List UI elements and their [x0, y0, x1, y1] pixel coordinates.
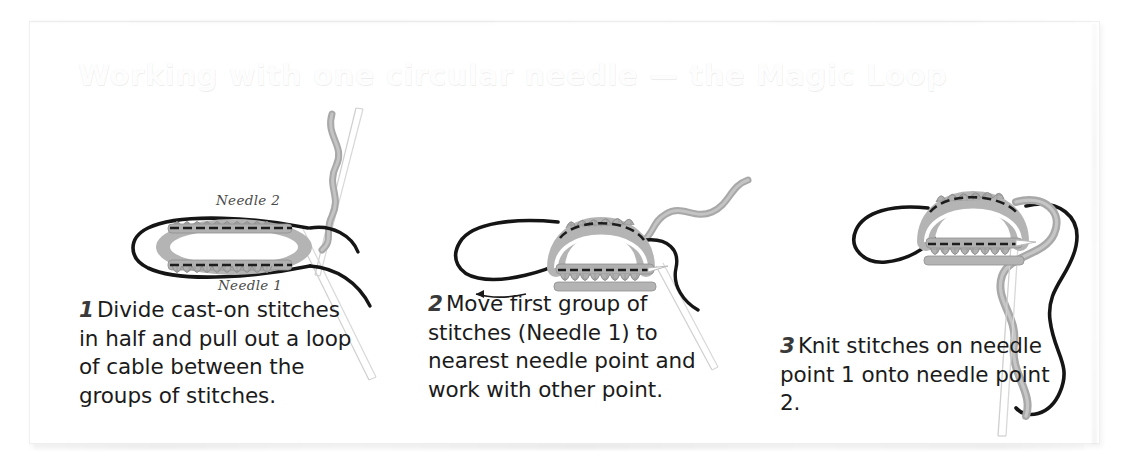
step-2: 2Move first group of stitches (Needle 1)…	[428, 290, 728, 404]
step-3-number: 3	[780, 333, 798, 358]
needle-1-stitch-bar	[924, 238, 1036, 265]
step-3-caption: 3Knit stitches on needle point 1 onto ne…	[780, 332, 1070, 418]
label-needle-1: Needle 1	[217, 277, 282, 293]
step-2-caption-text: Move first group of stitches (Needle 1) …	[428, 291, 696, 402]
magic-loop-step-3-illustration	[820, 168, 1120, 468]
step-3: 3Knit stitches on needle point 1 onto ne…	[780, 332, 1070, 418]
cable-loop	[456, 221, 562, 280]
page-title: Working with one circular needle — the M…	[78, 55, 938, 95]
step-1-number: 1	[79, 297, 97, 322]
label-needle-2: Needle 2	[215, 192, 280, 208]
moved-stitch-group	[554, 264, 668, 291]
step-1-caption: 1Divide cast-on stitches in half and pul…	[79, 296, 364, 410]
step-1-caption-text: Divide cast-on stitches in half and pull…	[79, 297, 351, 408]
step-1: 1Divide cast-on stitches in half and pul…	[79, 296, 364, 410]
step-2-caption: 2Move first group of stitches (Needle 1)…	[428, 290, 728, 404]
working-yarn	[642, 180, 748, 242]
step-3-caption-text: Knit stitches on needle point 1 onto nee…	[780, 333, 1049, 415]
page-top-edge	[30, 20, 1090, 23]
page-root: Working with one circular needle — the M…	[0, 0, 1142, 473]
stitch-arch	[556, 226, 646, 268]
cable-right-upper	[310, 227, 358, 252]
stitch-arch	[926, 200, 1020, 242]
step-2-number: 2	[428, 291, 446, 316]
